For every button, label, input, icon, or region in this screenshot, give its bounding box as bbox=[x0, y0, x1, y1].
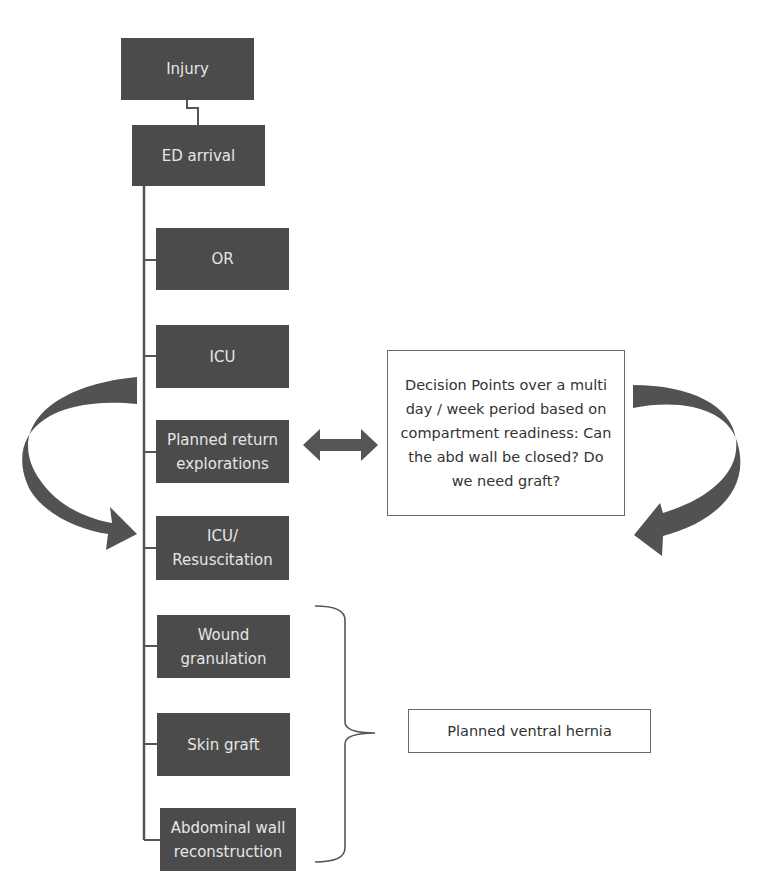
node-planned-return: Planned return explorations bbox=[156, 420, 289, 483]
injury-ed-connector bbox=[187, 100, 198, 125]
right-loop-arrow-icon bbox=[633, 385, 740, 556]
node-injury: Injury bbox=[121, 38, 254, 100]
node-icu: ICU bbox=[156, 325, 289, 388]
node-abdominal-wall-reconstruction: Abdominal wall reconstruction bbox=[160, 808, 296, 871]
node-or: OR bbox=[156, 228, 289, 290]
planned-ventral-hernia-note: Planned ventral hernia bbox=[408, 709, 651, 753]
node-wound-granulation: Wound granulation bbox=[157, 615, 290, 678]
decision-points-note: Decision Points over a multi day / week … bbox=[387, 350, 625, 516]
node-ed-arrival: ED arrival bbox=[132, 125, 265, 186]
connector-layer bbox=[0, 0, 769, 892]
double-arrow-icon bbox=[303, 429, 378, 461]
left-loop-arrow-icon bbox=[22, 377, 137, 550]
node-skin-graft: Skin graft bbox=[157, 713, 290, 776]
brace bbox=[315, 606, 375, 862]
node-icu-resuscitation: ICU/ Resuscitation bbox=[156, 516, 289, 580]
